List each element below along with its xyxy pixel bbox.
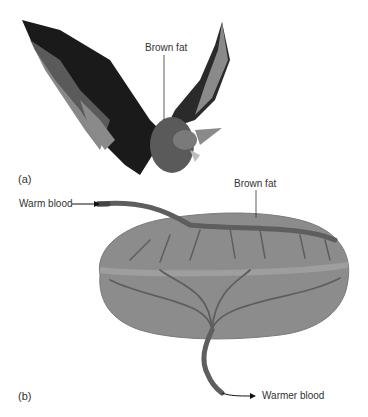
warmer-blood-label: Warmer blood [262,390,324,401]
brown-fat-label-b: Brown fat [234,178,276,189]
panel-b-label: (b) [18,390,31,402]
panel-a-label: (a) [18,173,31,185]
warm-blood-label: Warm blood [19,198,73,209]
warm-blood-arrow [72,201,100,207]
bat-illustration [22,20,230,175]
brown-fat-label-a: Brown fat [145,42,187,53]
warmer-blood-arrow [222,393,256,399]
